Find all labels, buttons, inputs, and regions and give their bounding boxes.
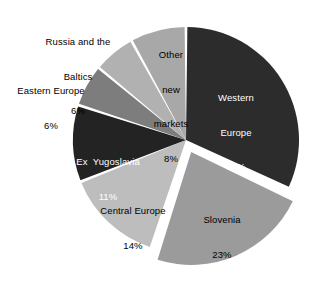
slice-label-other-new-markets: Other new markets 8%	[143, 26, 199, 187]
slice-percent-slovenia: 23%	[186, 249, 258, 261]
slice-label-russia-and-the-baltics: Russia and the Baltics 6%	[28, 13, 128, 140]
slice-percent-western-europe: 32%	[199, 161, 273, 173]
slice-label-western-europe-line1: Western	[199, 92, 273, 104]
slice-label-western-europe: Western Europe 32%	[199, 69, 273, 196]
slice-label-slovenia-line1: Slovenia	[186, 214, 258, 226]
slice-percent-russia-and-the-baltics: 6%	[28, 105, 128, 117]
slice-label-other-new-markets-line2: new	[143, 84, 199, 96]
pie-chart: Western Europe 32% Slovenia 23% Central …	[0, 0, 333, 286]
slice-label-other-new-markets-line3: markets	[143, 118, 199, 130]
slice-percent-other-new-markets: 8%	[143, 153, 199, 165]
slice-label-russia-and-the-baltics-line2: Baltics	[28, 71, 128, 83]
slice-percent-ex-yugoslavia: 11%	[57, 191, 159, 203]
slice-label-western-europe-line2: Europe	[199, 127, 273, 139]
slice-label-slovenia: Slovenia 23%	[186, 191, 258, 283]
slice-percent-central-europe: 14%	[83, 240, 183, 252]
slice-label-other-new-markets-line1: Other	[143, 49, 199, 61]
slice-label-russia-and-the-baltics-line1: Russia and the	[28, 36, 128, 48]
